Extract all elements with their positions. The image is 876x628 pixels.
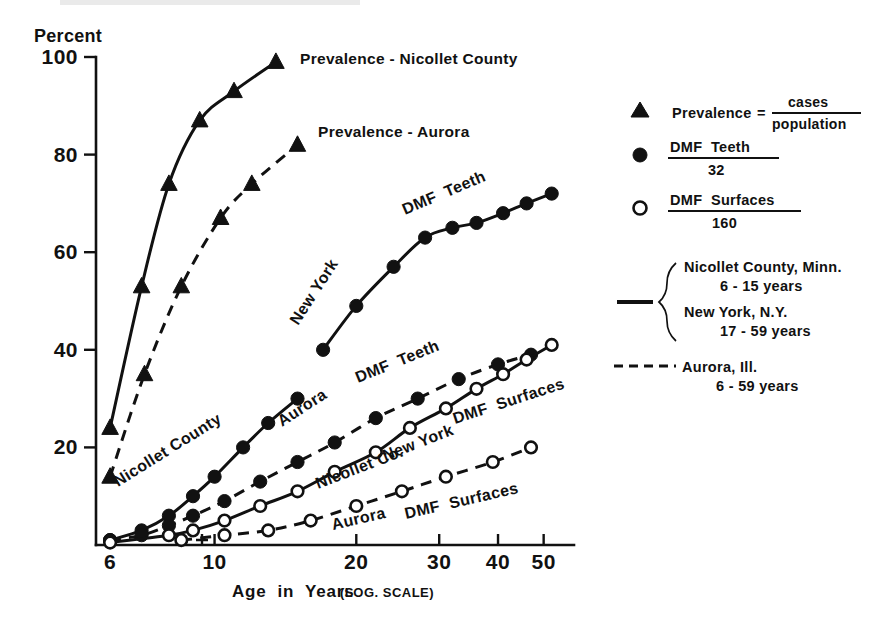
legend-dmf-teeth-denominator: 32	[708, 162, 725, 178]
chart-figure: Percent 20406080100 61020304050 Age in Y…	[0, 0, 876, 628]
data-point-marker	[244, 175, 261, 191]
data-point-marker	[291, 455, 304, 468]
data-point-marker	[102, 419, 119, 435]
legend: Prevalence = cases population DMF Teeth …	[614, 94, 861, 394]
data-point-marker	[226, 82, 243, 97]
legend-prevalence-denominator: population	[772, 116, 847, 132]
y-tick-label: 100	[41, 45, 78, 68]
annotation-aurora-teeth: Aurora	[274, 385, 329, 429]
data-point-marker	[208, 470, 221, 483]
data-point-marker	[187, 525, 199, 537]
legend-ages-new-york: 17 - 59 years	[720, 323, 811, 339]
legend-item-dmf-surfaces[interactable]: DMF Surfaces 160	[634, 192, 802, 231]
x-tick-label: 20	[344, 550, 368, 573]
data-point-marker	[470, 216, 483, 229]
data-point-marker	[328, 436, 341, 449]
data-point-marker	[254, 475, 267, 488]
data-point-marker	[186, 490, 199, 503]
legend-ages-aurora: 6 - 59 years	[716, 378, 799, 394]
data-point-marker	[404, 422, 416, 434]
data-point-marker	[419, 231, 432, 244]
legend-place-nicollet: Nicollet County, Minn.	[684, 259, 842, 275]
legend-place-new-york: New York, N.Y.	[684, 304, 788, 320]
filled-circle-marker	[633, 148, 647, 162]
legend-dmf-surfaces-numerator: DMF Surfaces	[670, 192, 775, 208]
annotation-dmf-surfaces-new-york: DMF Surfaces	[451, 375, 567, 427]
data-point-marker	[237, 441, 250, 454]
data-point-marker	[186, 509, 199, 522]
data-point-marker	[104, 537, 116, 549]
x-tick-label: 40	[486, 550, 510, 573]
y-axis-ticks: 20406080100	[41, 45, 96, 458]
legend-dmf-teeth-numerator: DMF Teeth	[670, 139, 750, 155]
data-point-marker	[350, 299, 363, 312]
data-point-marker	[289, 136, 306, 152]
annotation-new-york-teeth: New York	[286, 256, 341, 328]
data-point-marker	[487, 456, 499, 468]
data-point-marker	[173, 277, 190, 292]
filled-triangle-marker	[631, 102, 649, 117]
y-tick-label: 80	[54, 143, 78, 166]
data-point-marker	[546, 339, 558, 351]
legend-place-aurora: Aurora, Ill.	[682, 359, 757, 375]
annotation-prevalence-aurora: Prevalence - Aurora	[318, 123, 470, 140]
data-point-marker	[305, 515, 317, 527]
data-point-marker	[520, 197, 533, 210]
legend-dmf-surfaces-denominator: 160	[712, 215, 737, 231]
legend-item-solid-line[interactable]: Nicollet County, Minn. 6 - 15 years New …	[617, 259, 842, 341]
data-point-marker	[292, 486, 304, 498]
legend-item-dashed-line[interactable]: Aurora, Ill. 6 - 59 years	[614, 359, 799, 394]
series-prevalence-nicollet-county	[102, 53, 284, 435]
data-point-marker	[262, 525, 274, 537]
data-point-marker	[163, 529, 175, 541]
data-point-marker	[136, 365, 153, 381]
x-tick-label: 30	[427, 550, 451, 573]
data-point-marker	[440, 403, 452, 415]
y-tick-label: 40	[54, 338, 78, 361]
data-point-marker	[452, 373, 465, 386]
x-tick-label: 50	[531, 550, 555, 573]
data-point-marker	[317, 343, 330, 356]
data-point-marker	[521, 354, 533, 366]
data-point-marker	[396, 486, 408, 498]
data-point-marker	[387, 260, 400, 273]
data-point-marker	[219, 529, 231, 541]
legend-item-dmf-teeth[interactable]: DMF Teeth 32	[633, 139, 779, 178]
data-point-marker	[133, 277, 150, 292]
data-point-marker	[268, 53, 285, 69]
data-point-marker	[176, 534, 188, 546]
legend-item-prevalence[interactable]: Prevalence = cases population	[631, 94, 861, 132]
y-tick-label: 20	[54, 435, 78, 458]
series-new-york-dmf-teeth	[317, 187, 559, 356]
x-axis-title-note: (LOG. SCALE)	[340, 585, 434, 600]
data-point-marker	[446, 221, 459, 234]
open-circle-marker	[634, 202, 647, 215]
data-point-marker	[262, 416, 275, 429]
legend-prevalence-numerator: cases	[788, 94, 828, 110]
x-tick-label: 10	[202, 550, 226, 573]
data-point-marker	[411, 392, 424, 405]
data-point-marker	[525, 442, 537, 454]
legend-label-prevalence: Prevalence	[672, 105, 752, 121]
x-axis-title: Age in Years	[232, 582, 354, 601]
data-point-marker	[545, 187, 558, 200]
annotation-dmf-surfaces-aurora: DMF Surfaces	[403, 479, 520, 522]
y-axis-caption: Percent	[34, 26, 102, 46]
series-line	[323, 194, 552, 350]
data-point-marker	[440, 471, 452, 483]
annotation-prevalence-nicollet: Prevalence - Nicollet County	[300, 50, 518, 67]
data-point-marker	[254, 500, 266, 512]
series-line	[110, 62, 276, 428]
data-point-marker	[369, 412, 382, 425]
annotation-dmf-teeth-new-york: DMF Teeth	[400, 167, 489, 217]
x-tick-label: 6	[104, 550, 116, 573]
data-point-marker	[497, 207, 510, 220]
data-point-marker	[497, 368, 509, 380]
legend-ages-nicollet: 6 - 15 years	[720, 278, 803, 294]
data-point-marker	[161, 175, 178, 191]
annotation-dmf-teeth-aurora: DMF Teeth	[353, 337, 442, 386]
legend-equals-sign: =	[757, 105, 766, 121]
legend-brace-icon	[659, 263, 676, 341]
data-point-marker	[471, 383, 483, 395]
y-tick-label: 60	[54, 240, 78, 263]
